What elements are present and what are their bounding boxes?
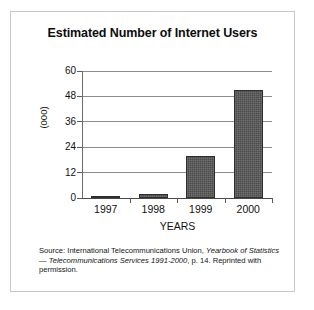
x-tick-mark bbox=[272, 198, 273, 203]
x-axis-tick-label: 1999 bbox=[177, 203, 225, 215]
chart-figure: Estimated Number of Internet Users (000)… bbox=[0, 0, 314, 310]
gridline bbox=[82, 71, 272, 72]
plot-area bbox=[82, 71, 272, 198]
y-axis-tick-label: 24 bbox=[65, 142, 76, 152]
x-axis-tick-label: 1998 bbox=[130, 203, 178, 215]
y-axis-line bbox=[82, 71, 83, 199]
y-axis-tick-label: 12 bbox=[65, 168, 76, 178]
y-axis-title: (000) bbox=[38, 98, 49, 138]
source-note-title: Telecommunications Services 1991-2000 bbox=[49, 256, 188, 265]
y-axis-tick-label: 48 bbox=[65, 91, 76, 101]
y-axis-tick-label: 36 bbox=[65, 117, 76, 127]
bar bbox=[186, 156, 215, 198]
y-axis-tick-label: 60 bbox=[65, 66, 76, 76]
source-note: Source: International Telecommunications… bbox=[39, 246, 284, 275]
y-axis-tick-label: 0 bbox=[70, 193, 76, 203]
x-axis-tick-label: 1997 bbox=[82, 203, 130, 215]
x-axis-title: YEARS bbox=[82, 220, 273, 232]
bar bbox=[234, 90, 263, 198]
chart-title: Estimated Number of Internet Users bbox=[10, 26, 295, 40]
x-axis-tick-label: 2000 bbox=[225, 203, 273, 215]
source-note-text: Source: International Telecommunications… bbox=[39, 246, 206, 255]
y-axis-tick-labels: 01224364860 bbox=[52, 71, 76, 199]
source-note-text: — bbox=[39, 256, 49, 265]
source-note-title: Yearbook of Statistics bbox=[206, 246, 279, 255]
